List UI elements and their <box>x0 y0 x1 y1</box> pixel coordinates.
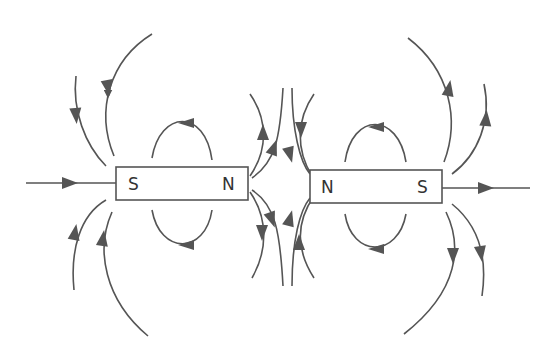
left-magnet-south-label: S <box>128 174 139 194</box>
axis-field-line-left <box>26 177 116 189</box>
magnetic-field-diagram: S N N S <box>0 0 558 356</box>
left-magnet: S N <box>116 167 248 200</box>
axis-field-line-right <box>442 182 530 194</box>
right-magnet: N S <box>310 170 442 203</box>
left-arrowheads <box>68 79 194 250</box>
right-magnet-south-label: S <box>417 177 428 197</box>
right-magnet-north-label: N <box>321 177 334 197</box>
arrow-icon <box>62 177 78 189</box>
arrow-icon <box>478 182 494 194</box>
central-field-lines <box>250 88 314 286</box>
left-magnet-north-label: N <box>222 174 235 194</box>
